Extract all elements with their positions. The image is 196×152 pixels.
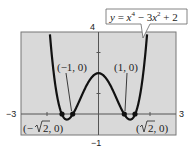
svg-text:2, 0): 2, 0) (43, 122, 64, 135)
y-max-label: 4 (90, 22, 95, 32)
label-neg-1: (−1, 0) (57, 61, 87, 74)
x-min-label: −3 (6, 109, 16, 119)
label-neg-sqrt2: (− 2, 0) (23, 121, 64, 135)
svg-text:2, 0): 2, 0) (148, 122, 169, 135)
point-pos-sqrt2 (132, 111, 137, 116)
point-neg-1 (70, 111, 75, 116)
figure: −3 3 4 −1 (−1, 0) (1, 0) (− 2, 0) ( 2, 0… (0, 0, 196, 152)
y-min-label: −1 (91, 138, 101, 148)
svg-text:(−: (− (23, 122, 33, 135)
point-neg-sqrt2 (59, 111, 64, 116)
equation-label: y = x4 − 3x2 + 2 (109, 10, 178, 23)
x-max-label: 3 (179, 109, 184, 119)
graph: −3 3 4 −1 (−1, 0) (1, 0) (− 2, 0) ( 2, 0… (0, 0, 196, 152)
svg-text:(: ( (136, 122, 140, 135)
point-pos-1 (122, 111, 127, 116)
label-pos-1: (1, 0) (114, 61, 138, 74)
